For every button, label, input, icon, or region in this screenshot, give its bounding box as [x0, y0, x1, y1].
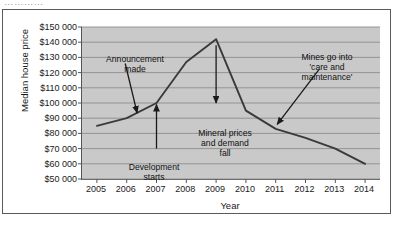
- y-axis-tick-label: $80 000: [17, 128, 77, 138]
- cut-off-heading: …………: [4, 0, 304, 7]
- annotation-mines-care-maintenance: Mines go into 'care and maintenance': [275, 52, 379, 82]
- y-axis-tick-label: $90 000: [17, 113, 77, 123]
- y-axis-tick-label: $50 000: [17, 174, 77, 184]
- chart-frame: Median house price $150 000$140 000$130 …: [2, 9, 391, 214]
- y-axis-tick-label: $70 000: [17, 144, 77, 154]
- annotation-mineral-prices: Mineral prices and demand fall: [179, 128, 271, 158]
- y-axis-tick-label: $130 000: [17, 52, 77, 62]
- x-axis-ticks: 2005200620072008200920102011201220132014: [81, 184, 379, 198]
- y-axis-tick-label: $150 000: [17, 22, 77, 32]
- x-axis-tick-label: 2014: [347, 184, 381, 194]
- y-axis-tick-label: $60 000: [17, 159, 77, 169]
- x-axis-label: Year: [81, 200, 379, 211]
- y-axis-tick-label: $140 000: [17, 37, 77, 47]
- annotation-announcement: Announcement made: [87, 54, 183, 74]
- y-axis-ticks: $150 000$140 000$130 000$120 000$110 000…: [15, 10, 77, 215]
- y-axis-tick-label: $110 000: [17, 83, 77, 93]
- y-axis-tick-label: $100 000: [17, 98, 77, 108]
- y-axis-tick-label: $120 000: [17, 68, 77, 78]
- annotation-development: Development starts: [111, 162, 197, 182]
